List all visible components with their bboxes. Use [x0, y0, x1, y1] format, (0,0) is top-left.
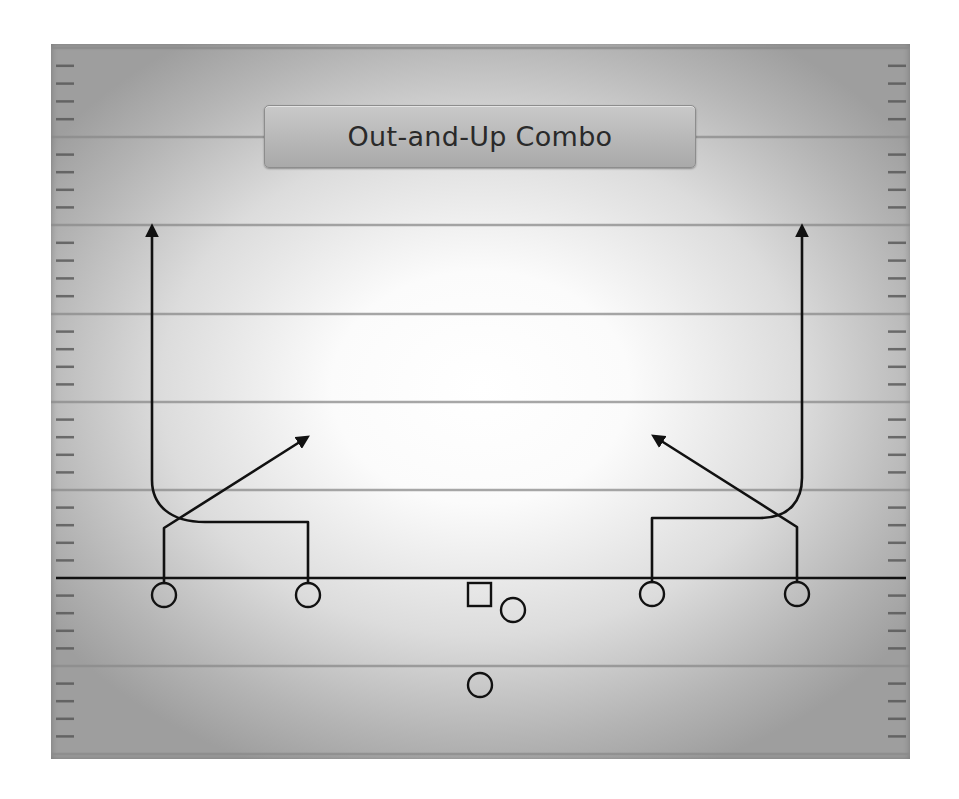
route-right-slot: [652, 228, 802, 582]
route-right-outside: [655, 437, 797, 582]
route-left-slot: [152, 228, 308, 583]
player-running-back: [468, 673, 492, 697]
player-receiver-right-slot: [640, 582, 664, 606]
play-title: Out-and-Up Combo: [348, 121, 613, 152]
play-title-banner: Out-and-Up Combo: [264, 105, 696, 168]
player-quarterback: [501, 598, 525, 622]
player-center-square: [468, 583, 491, 606]
routes: [152, 228, 802, 583]
player-receiver-left-outside: [152, 583, 176, 607]
players: [152, 582, 809, 697]
player-receiver-left-slot: [296, 583, 320, 607]
route-left-outside: [164, 438, 306, 583]
player-receiver-right-outside: [785, 582, 809, 606]
